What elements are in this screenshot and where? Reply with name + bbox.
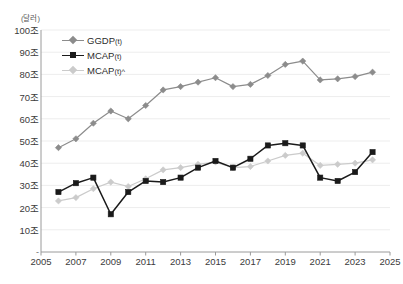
y-axis-tick-label: 20조: [1, 201, 39, 215]
legend-label: GGDP(t): [87, 35, 122, 46]
legend-label-main: MCAP: [87, 65, 114, 76]
data-point-marker: [178, 165, 184, 171]
x-axis-tick-label: 2007: [65, 256, 86, 267]
data-point-marker: [161, 179, 166, 184]
data-point-marker: [230, 84, 236, 90]
data-point-marker: [265, 143, 270, 148]
data-point-marker: [212, 75, 218, 81]
x-axis-tick-label: 2009: [100, 256, 121, 267]
legend-label-main: MCAP: [87, 50, 114, 61]
y-axis-tick-label: 70조: [1, 90, 39, 104]
x-axis-tick-label: 2021: [310, 256, 331, 267]
data-point-marker: [195, 79, 201, 85]
legend-item-ggdp-t-[interactable]: GGDP(t): [62, 34, 125, 47]
data-point-marker: [160, 167, 166, 173]
y-axis-tick-label: 30조: [1, 178, 39, 192]
legend-label-main: GGDP: [87, 35, 115, 46]
data-point-marker: [247, 81, 253, 87]
legend-marker-diamond-icon: [69, 36, 77, 44]
legend-label: MCAP(t)^: [87, 65, 125, 76]
legend-swatch-icon: [62, 35, 84, 46]
x-axis-tick-label: 2011: [135, 256, 155, 267]
legend-label-subscript: (t)^: [114, 67, 125, 76]
data-point-marker: [353, 169, 358, 174]
data-point-marker: [126, 189, 131, 194]
data-point-marker: [178, 175, 183, 180]
series-mcap-t-: [56, 141, 375, 217]
legend-item-mcap-t-[interactable]: MCAP(t): [62, 49, 125, 62]
data-point-marker: [265, 72, 271, 78]
data-point-marker: [230, 165, 235, 170]
y-axis-tick-label: 40조: [1, 156, 39, 170]
data-point-marker: [73, 195, 79, 201]
data-point-marker: [108, 179, 114, 185]
data-point-marker: [195, 165, 200, 170]
legend-marker-diamond-icon: [69, 66, 77, 74]
data-point-marker: [73, 181, 78, 186]
x-axis-tick-label: 2019: [275, 256, 296, 267]
data-point-marker: [91, 175, 96, 180]
y-axis-tick-label: 10조: [1, 223, 39, 237]
x-axis-tick-label: 2023: [345, 256, 366, 267]
legend-item-mcap-t-[interactable]: MCAP(t)^: [62, 64, 125, 77]
data-point-marker: [125, 183, 131, 189]
data-point-marker: [283, 141, 288, 146]
data-point-marker: [248, 156, 253, 161]
x-axis-tick-label: 2025: [379, 256, 400, 267]
series-line: [58, 143, 372, 214]
chart-container: (달러) -10조20조30조40조50조60조70조80조90조100조 20…: [0, 0, 403, 284]
legend-marker-square-icon: [70, 52, 76, 58]
data-point-marker: [369, 157, 375, 163]
y-axis-tick-label: 80조: [1, 67, 39, 81]
legend-label-subscript: (t): [115, 37, 122, 46]
data-point-marker: [213, 158, 218, 163]
data-point-marker: [282, 152, 288, 158]
y-axis-unit-label: (달러): [21, 12, 40, 23]
y-axis: -10조20조30조40조50조60조70조80조90조100조: [0, 30, 39, 252]
data-point-marker: [318, 175, 323, 180]
data-point-marker: [55, 145, 61, 151]
data-point-marker: [90, 186, 96, 192]
data-point-marker: [178, 84, 184, 90]
data-point-marker: [352, 160, 358, 166]
data-point-marker: [55, 198, 61, 204]
x-axis-tick-label: 2013: [170, 256, 191, 267]
x-axis-tick-label: 2015: [205, 256, 226, 267]
y-axis-tick-label: 90조: [1, 45, 39, 59]
data-point-marker: [335, 161, 341, 167]
data-point-marker: [370, 150, 375, 155]
data-point-marker: [247, 163, 253, 169]
x-axis-tick-label: 2017: [240, 256, 261, 267]
data-point-marker: [335, 76, 341, 82]
data-point-marker: [108, 212, 113, 217]
legend-label: MCAP(t): [87, 50, 122, 61]
data-point-marker: [300, 143, 305, 148]
y-axis-tick-label: 50조: [1, 134, 39, 148]
legend-swatch-icon: [62, 65, 84, 76]
data-point-marker: [56, 189, 61, 194]
y-axis-tick-label: 100조: [1, 23, 39, 37]
chart-legend: GGDP(t)MCAP(t)MCAP(t)^: [62, 34, 125, 77]
data-point-marker: [143, 178, 148, 183]
legend-label-subscript: (t): [114, 52, 121, 61]
data-point-marker: [282, 61, 288, 67]
x-axis: 2005200720092011201320152017201920212023…: [41, 256, 390, 276]
legend-swatch-icon: [62, 50, 84, 61]
data-point-marker: [335, 178, 340, 183]
x-axis-tick-label: 2005: [30, 256, 51, 267]
y-axis-tick-label: 60조: [1, 112, 39, 126]
